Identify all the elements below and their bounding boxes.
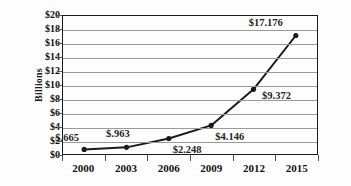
y-axis-tickmark bbox=[57, 15, 62, 16]
x-axis-tickmark bbox=[147, 155, 148, 161]
data-point-marker bbox=[166, 136, 171, 141]
x-axis-tickmark bbox=[275, 155, 276, 161]
gridline bbox=[63, 30, 317, 31]
x-axis-tick-label: 2012 bbox=[243, 163, 265, 174]
y-axis-tickmark bbox=[57, 113, 62, 114]
data-point-marker bbox=[82, 147, 87, 152]
gridline bbox=[63, 142, 317, 143]
x-axis-tickmark bbox=[105, 155, 106, 161]
x-axis-tick-label: 2009 bbox=[200, 163, 222, 174]
gridline bbox=[63, 128, 317, 129]
data-point-marker bbox=[293, 33, 298, 38]
y-axis-tickmark bbox=[57, 29, 62, 30]
x-axis-tick-label: 2003 bbox=[115, 163, 137, 174]
y-axis-tickmark bbox=[57, 43, 62, 44]
y-axis-tickmark bbox=[57, 127, 62, 128]
data-point-label: $9.372 bbox=[262, 91, 291, 102]
data-point-marker bbox=[124, 145, 129, 150]
data-point-label: $.665 bbox=[55, 133, 79, 144]
y-axis-tickmark bbox=[57, 57, 62, 58]
gridline bbox=[63, 58, 317, 59]
gridline bbox=[63, 114, 317, 115]
x-axis-tickmark bbox=[233, 155, 234, 161]
gridline bbox=[63, 72, 317, 73]
y-axis-tickmark bbox=[57, 71, 62, 72]
data-point-marker bbox=[251, 87, 256, 92]
x-axis-tickmark bbox=[62, 155, 63, 161]
plot-area bbox=[62, 15, 318, 155]
data-point-label: $2.248 bbox=[173, 145, 202, 156]
x-axis-tick-label: 2006 bbox=[158, 163, 180, 174]
y-axis-tickmark bbox=[57, 99, 62, 100]
x-axis-tickmark bbox=[318, 155, 319, 161]
data-point-label: $17.176 bbox=[249, 18, 283, 29]
x-axis-tick-label: 2000 bbox=[72, 163, 94, 174]
y-axis-tickmark bbox=[57, 85, 62, 86]
gridline bbox=[63, 44, 317, 45]
x-axis-tickmark bbox=[190, 155, 191, 161]
x-axis-tick-label: 2015 bbox=[286, 163, 308, 174]
gridline bbox=[63, 86, 317, 87]
chart-page: Billions $0$2$4$6$8$10$12$14$16$18$20 20… bbox=[0, 0, 351, 186]
data-point-label: $.963 bbox=[106, 129, 130, 140]
data-point-label: $4.146 bbox=[215, 132, 244, 143]
series-line bbox=[63, 16, 317, 154]
